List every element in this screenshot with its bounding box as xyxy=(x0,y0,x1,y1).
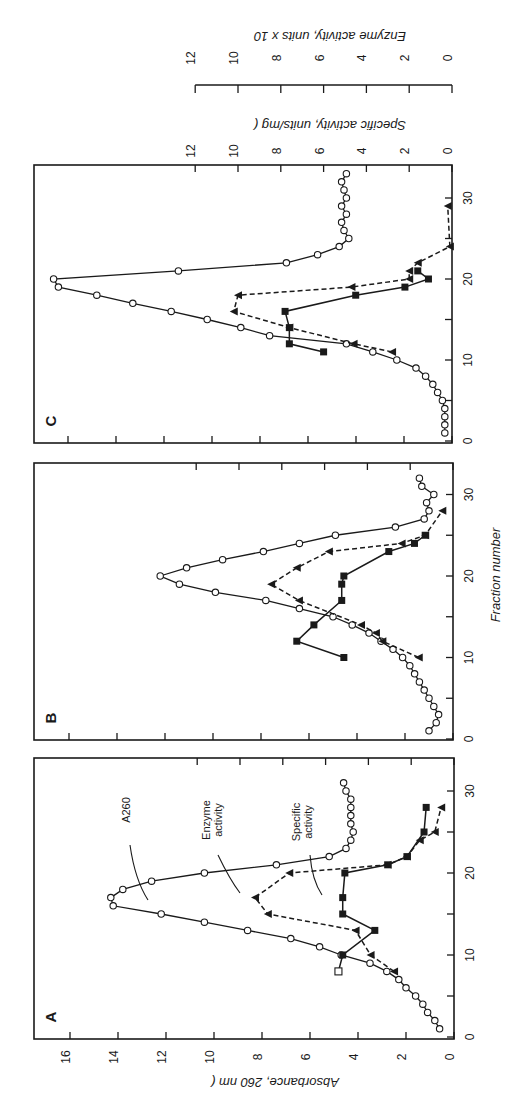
data-point xyxy=(94,292,100,298)
specific-activity-tick-label: 2 xyxy=(398,147,412,154)
figure: 0102030A0102030B0102030C Fraction number… xyxy=(0,0,532,1101)
data-point xyxy=(411,540,418,547)
data-point xyxy=(204,316,210,322)
absorbance-tick-label: 16 xyxy=(59,1050,73,1064)
panels: 0102030A0102030B0102030C xyxy=(34,165,477,1040)
data-point xyxy=(367,951,375,959)
enzyme-activity-tick-label: 4 xyxy=(355,54,369,61)
data-point xyxy=(405,267,413,275)
panel-b: 0102030B xyxy=(34,463,476,742)
absorbance-tick-label: 4 xyxy=(347,1053,361,1060)
data-point xyxy=(296,605,302,611)
data-point xyxy=(348,804,354,810)
data-point xyxy=(416,679,422,685)
annotation-specific-2: activity xyxy=(302,805,314,839)
fraction-tick-label: 30 xyxy=(463,784,477,798)
data-point xyxy=(431,703,437,709)
data-point xyxy=(341,187,347,193)
data-point xyxy=(295,596,303,604)
data-point xyxy=(432,1017,438,1023)
data-point xyxy=(343,788,349,794)
data-point xyxy=(212,589,218,595)
data-point xyxy=(413,365,419,371)
data-point xyxy=(425,276,432,283)
plot-frame xyxy=(34,165,452,443)
data-point xyxy=(414,267,421,274)
data-point xyxy=(332,532,338,538)
data-point xyxy=(423,804,430,811)
fraction-tick-label: 30 xyxy=(462,488,476,502)
enzyme-activity-tick-label: 2 xyxy=(398,54,412,61)
data-point xyxy=(296,540,302,546)
data-point xyxy=(325,548,333,556)
specific-activity-tick-label: 10 xyxy=(227,144,241,158)
data-point xyxy=(343,211,349,217)
panel-label: C xyxy=(42,415,59,426)
data-point xyxy=(442,430,448,436)
annotation-enzyme-2: activity xyxy=(212,803,224,837)
data-point xyxy=(421,516,427,522)
data-point xyxy=(352,926,360,934)
data-point xyxy=(348,812,354,818)
data-point xyxy=(260,548,266,554)
data-point xyxy=(415,654,423,662)
data-point xyxy=(120,886,126,892)
data-point xyxy=(433,720,439,726)
y2-axis-title: Specific activity, units/mg ( xyxy=(252,118,406,133)
data-point xyxy=(343,195,349,201)
data-point xyxy=(394,357,400,363)
data-point xyxy=(219,557,225,563)
data-point xyxy=(421,687,427,693)
data-point xyxy=(110,903,116,909)
data-point xyxy=(168,308,174,314)
fraction-tick-label: 0 xyxy=(463,1033,477,1040)
data-point xyxy=(430,381,436,387)
enzyme-activity-tick-label: 12 xyxy=(184,51,198,65)
data-point xyxy=(396,976,402,982)
data-point xyxy=(201,870,207,876)
series-enzyme-activity xyxy=(251,803,445,975)
data-point xyxy=(411,671,417,677)
data-point xyxy=(157,573,163,579)
data-point xyxy=(426,695,432,701)
fraction-tick-label: 20 xyxy=(461,272,475,286)
data-point xyxy=(285,869,293,877)
x-axis-title: Fraction number xyxy=(488,527,503,622)
data-point xyxy=(148,878,154,884)
annotation-a260: A260 xyxy=(120,797,132,823)
data-point xyxy=(244,927,250,933)
data-point xyxy=(341,870,348,877)
plot-frame xyxy=(34,758,454,1039)
data-point xyxy=(238,324,244,330)
fraction-tick-label: 30 xyxy=(461,191,475,205)
data-point xyxy=(338,597,345,604)
panel-a: 0102030A xyxy=(34,758,477,1040)
data-point xyxy=(335,968,342,975)
specific-activity-tick-label: 4 xyxy=(355,147,369,154)
series-specific-activity xyxy=(335,804,430,975)
panel-c: 0102030C xyxy=(34,165,475,444)
data-point xyxy=(352,292,359,299)
data-point xyxy=(183,565,189,571)
specific-activity-tick-label: 12 xyxy=(184,144,198,158)
data-point xyxy=(251,894,259,902)
y3-axis-title: Enzyme activity, units x 10 xyxy=(253,29,406,44)
data-point xyxy=(339,911,346,918)
data-point xyxy=(293,638,300,645)
data-point xyxy=(436,1026,442,1032)
specific-activity-tick-label: 8 xyxy=(270,147,284,154)
data-point xyxy=(439,397,445,403)
series-specific-activity xyxy=(293,532,428,661)
data-point xyxy=(201,919,207,925)
data-point xyxy=(346,235,352,241)
data-point xyxy=(350,829,356,835)
data-point xyxy=(286,340,293,347)
data-point xyxy=(339,894,346,901)
data-point xyxy=(399,654,405,660)
data-point xyxy=(416,475,422,481)
data-point xyxy=(442,405,448,411)
data-point xyxy=(176,581,182,587)
data-point xyxy=(371,927,378,934)
data-point xyxy=(420,1001,426,1007)
data-point xyxy=(266,333,272,339)
